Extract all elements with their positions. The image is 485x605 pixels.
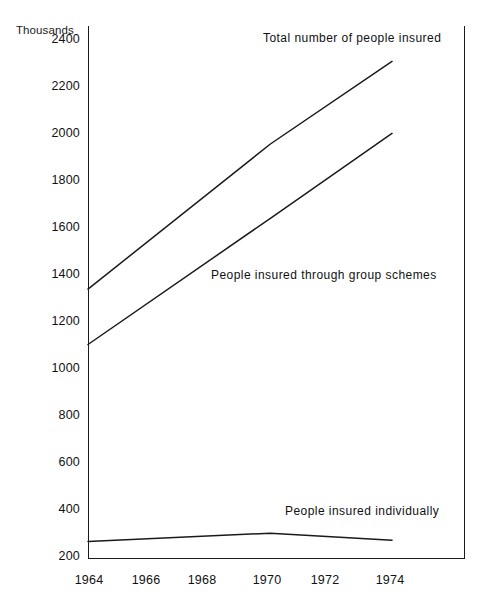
x-tick-label-1972: 1972: [295, 573, 355, 587]
series-line-group: [88, 133, 392, 344]
series-line-total: [88, 61, 392, 289]
y-tick-label-200: 200: [18, 549, 80, 563]
x-tick-label-1968: 1968: [172, 573, 232, 587]
y-tick-label-2200: 2200: [18, 79, 80, 93]
y-tick-label-600: 600: [18, 455, 80, 469]
y-tick-label-1800: 1800: [18, 173, 80, 187]
y-tick-label-1000: 1000: [18, 361, 80, 375]
y-tick-label-1600: 1600: [18, 220, 80, 234]
y-tick-label-1400: 1400: [18, 267, 80, 281]
chart-axes: [88, 26, 465, 559]
chart-container: Thousands 2400 2200 2000 1800 1600 1400 …: [0, 0, 485, 605]
series-annotation-total: Total number of people insured: [263, 31, 441, 45]
x-tick-label-1966: 1966: [116, 573, 176, 587]
x-tick-label-1970: 1970: [237, 573, 297, 587]
series-annotation-group: People insured through group schemes: [211, 268, 437, 282]
series-lines: [88, 61, 392, 541]
y-tick-label-2400: 2400: [18, 32, 80, 46]
series-line-individual: [88, 533, 392, 541]
y-tick-label-2000: 2000: [18, 126, 80, 140]
y-tick-label-800: 800: [18, 408, 80, 422]
x-tick-label-1964: 1964: [59, 573, 119, 587]
y-tick-label-1200: 1200: [18, 314, 80, 328]
y-tick-label-400: 400: [18, 502, 80, 516]
series-annotation-individual: People insured individually: [285, 504, 439, 518]
x-tick-label-1974: 1974: [360, 573, 420, 587]
